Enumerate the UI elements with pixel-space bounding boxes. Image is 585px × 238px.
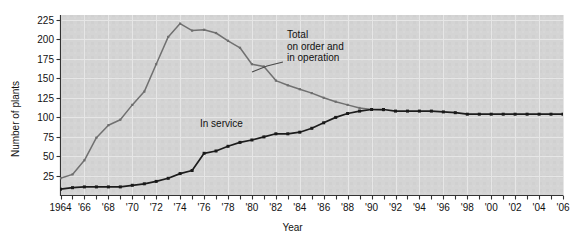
data-point-marker — [83, 159, 85, 161]
x-tick-label: '02 — [509, 202, 522, 213]
data-point-marker — [215, 150, 218, 153]
y-tick-label: 200 — [28, 34, 54, 45]
data-point-marker — [418, 110, 421, 113]
data-point-marker — [274, 132, 277, 135]
data-point-marker — [227, 145, 230, 148]
data-point-marker — [167, 36, 169, 38]
data-point-marker — [250, 139, 253, 142]
data-point-marker — [538, 113, 541, 116]
x-tick-label: '78 — [221, 202, 234, 213]
data-point-marker — [239, 141, 242, 144]
x-tick-label: '88 — [341, 202, 354, 213]
data-point-marker — [83, 185, 86, 188]
data-point-marker — [442, 110, 445, 113]
data-point-marker — [322, 121, 325, 124]
annotation-in-service-series: In service — [200, 118, 243, 130]
data-point-marker — [466, 113, 469, 116]
data-point-marker — [262, 135, 265, 138]
data-point-marker — [155, 180, 158, 183]
data-point-marker — [95, 137, 97, 139]
data-point-marker — [299, 88, 301, 90]
x-tick-label: '82 — [269, 202, 282, 213]
data-point-marker — [347, 104, 349, 106]
data-point-marker — [490, 113, 493, 116]
data-point-marker — [131, 104, 133, 106]
data-point-marker — [203, 29, 205, 31]
data-point-marker — [143, 182, 146, 185]
data-point-marker — [143, 91, 145, 93]
y-tick-label: 125 — [28, 92, 54, 103]
data-point-marker — [239, 47, 241, 49]
data-point-marker — [502, 113, 505, 116]
x-tick-label: '96 — [437, 202, 450, 213]
data-point-marker — [119, 119, 121, 121]
data-point-marker — [119, 185, 122, 188]
data-point-marker — [550, 113, 553, 116]
data-point-marker — [394, 110, 397, 113]
y-tick-label: 150 — [28, 73, 54, 84]
y-axis-title: Number of plants — [10, 81, 21, 157]
data-point-marker — [59, 188, 62, 191]
data-point-marker — [131, 184, 134, 187]
y-tick-label: 100 — [28, 112, 54, 123]
data-point-marker — [323, 97, 325, 99]
x-tick-label: '06 — [556, 202, 569, 213]
data-point-marker — [370, 108, 373, 111]
data-point-marker — [191, 30, 193, 32]
x-tick-label: '74 — [174, 202, 187, 213]
data-point-marker — [298, 131, 301, 134]
x-tick-label: '72 — [150, 202, 163, 213]
data-point-marker — [59, 177, 61, 179]
data-point-marker — [335, 101, 337, 103]
data-point-marker — [71, 173, 73, 175]
annotation-in-service-text: In service — [200, 118, 243, 130]
x-tick-label: '04 — [533, 202, 546, 213]
y-tick-label: 25 — [28, 170, 54, 181]
x-tick-label: '86 — [317, 202, 330, 213]
data-point-marker — [107, 124, 109, 126]
y-tick-label: 50 — [28, 151, 54, 162]
data-point-marker — [286, 132, 289, 135]
data-point-marker — [227, 40, 229, 42]
y-tick-label: 75 — [28, 131, 54, 142]
data-point-marker — [275, 80, 277, 82]
data-point-marker — [359, 107, 361, 109]
data-point-marker — [287, 84, 289, 86]
data-point-marker — [71, 186, 74, 189]
data-point-marker — [191, 169, 194, 172]
x-tick-label: '90 — [365, 202, 378, 213]
data-point-marker — [311, 92, 313, 94]
data-point-marker — [514, 113, 517, 116]
data-point-marker — [215, 32, 217, 34]
x-tick-label: '68 — [102, 202, 115, 213]
data-point-marker — [454, 111, 457, 114]
data-point-marker — [179, 172, 182, 175]
x-tick-label: '98 — [461, 202, 474, 213]
x-tick-label: '84 — [293, 202, 306, 213]
x-tick-label: '80 — [245, 202, 258, 213]
y-axis-title-wrapper: Number of plants — [14, 0, 28, 238]
y-tick-label: 175 — [28, 53, 54, 64]
data-point-marker — [179, 23, 181, 25]
data-point-marker — [155, 63, 157, 65]
data-point-marker — [167, 177, 170, 180]
data-point-marker — [430, 110, 433, 113]
data-point-marker — [346, 112, 349, 115]
x-tick-label: '92 — [389, 202, 402, 213]
nuclear-plants-line-chart: 255075100125150175200225 1964'66'68'70'7… — [0, 0, 585, 238]
data-point-marker — [107, 185, 110, 188]
annotation-total-line-2: on order and — [287, 41, 344, 53]
x-axis-title: Year — [0, 222, 585, 233]
data-point-marker — [203, 152, 206, 155]
data-point-marker — [310, 127, 313, 130]
annotation-total-line-3: in operation — [287, 52, 344, 64]
data-point-marker — [358, 110, 361, 113]
y-tick-label: 225 — [28, 14, 54, 25]
data-point-marker — [95, 185, 98, 188]
data-point-marker — [251, 63, 253, 65]
x-axis-ticks — [62, 196, 564, 200]
data-point-marker — [382, 108, 385, 111]
x-tick-label: '94 — [413, 202, 426, 213]
x-tick-label: '76 — [198, 202, 211, 213]
x-tick-label: '70 — [126, 202, 139, 213]
